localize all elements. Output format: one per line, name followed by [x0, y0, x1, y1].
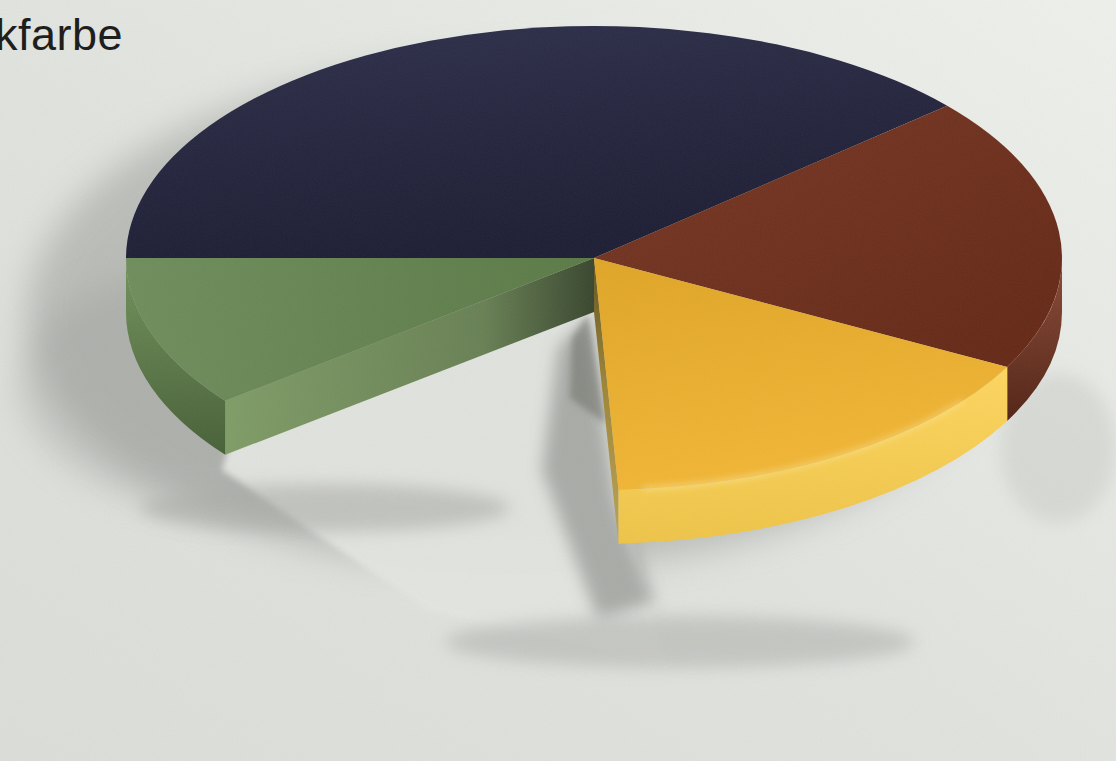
- photo-page: kfarbe: [0, 0, 1116, 761]
- photo-grain: [0, 0, 1116, 761]
- pie-3d-photo: [0, 0, 1116, 761]
- caption-fragment: kfarbe: [0, 10, 123, 60]
